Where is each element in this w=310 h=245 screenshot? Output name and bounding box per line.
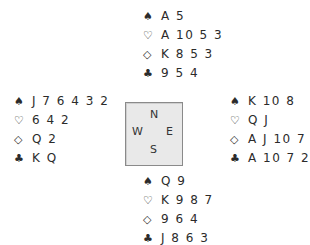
club-icon: ♣ (143, 229, 161, 245)
north-hand: ♠A 5 ♡A 10 5 3 ◇K 8 5 3 ♣9 5 4 (143, 7, 223, 83)
heart-icon: ♡ (143, 26, 161, 45)
north-hearts: ♡A 10 5 3 (143, 26, 223, 45)
east-hearts: ♡Q J (230, 111, 310, 130)
south-hand: ♠Q 9 ♡K 9 8 7 ◇9 6 4 ♣J 8 6 3 (143, 172, 214, 245)
west-diamonds-cards: Q 2 (32, 130, 57, 149)
club-icon: ♣ (143, 64, 161, 83)
south-diamonds-cards: 9 6 4 (161, 210, 199, 229)
diamond-icon: ◇ (143, 210, 161, 229)
spade-icon: ♠ (14, 92, 32, 111)
west-diamonds: ◇Q 2 (14, 130, 109, 149)
diamond-icon: ◇ (143, 45, 161, 64)
east-spades: ♠K 10 8 (230, 92, 310, 111)
south-spades: ♠Q 9 (143, 172, 214, 191)
north-diamonds: ◇K 8 5 3 (143, 45, 223, 64)
east-spades-cards: K 10 8 (248, 92, 295, 111)
west-spades: ♠J 7 6 4 3 2 (14, 92, 109, 111)
west-clubs: ♣K Q (14, 149, 109, 168)
club-icon: ♣ (230, 149, 248, 168)
north-diamonds-cards: K 8 5 3 (161, 45, 214, 64)
spade-icon: ♠ (230, 92, 248, 111)
compass-east-label: E (166, 126, 173, 138)
south-hearts-cards: K 9 8 7 (161, 191, 214, 210)
club-icon: ♣ (14, 149, 32, 168)
east-hand: ♠K 10 8 ♡Q J ◇A J 10 7 ♣A 10 7 2 (230, 92, 310, 168)
north-spades-cards: A 5 (161, 7, 185, 26)
spade-icon: ♠ (143, 172, 161, 191)
compass-south-label: S (150, 144, 157, 156)
north-clubs: ♣9 5 4 (143, 64, 223, 83)
east-hearts-cards: Q J (248, 111, 269, 130)
west-spades-cards: J 7 6 4 3 2 (32, 92, 109, 111)
west-hearts: ♡6 4 2 (14, 111, 109, 130)
east-clubs: ♣A 10 7 2 (230, 149, 310, 168)
compass-north-label: N (150, 109, 158, 121)
heart-icon: ♡ (143, 191, 161, 210)
west-clubs-cards: K Q (32, 149, 58, 168)
diamond-icon: ◇ (14, 130, 32, 149)
heart-icon: ♡ (14, 111, 32, 130)
south-spades-cards: Q 9 (161, 172, 186, 191)
compass-box: N W E S (125, 102, 183, 166)
north-hearts-cards: A 10 5 3 (161, 26, 223, 45)
south-clubs-cards: J 8 6 3 (161, 229, 209, 245)
compass-west-label: W (132, 126, 143, 138)
north-spades: ♠A 5 (143, 7, 223, 26)
north-clubs-cards: 9 5 4 (161, 64, 199, 83)
east-diamonds-cards: A J 10 7 (248, 130, 306, 149)
west-hand: ♠J 7 6 4 3 2 ♡6 4 2 ◇Q 2 ♣K Q (14, 92, 109, 168)
spade-icon: ♠ (143, 7, 161, 26)
diamond-icon: ◇ (230, 130, 248, 149)
heart-icon: ♡ (230, 111, 248, 130)
south-hearts: ♡K 9 8 7 (143, 191, 214, 210)
south-clubs: ♣J 8 6 3 (143, 229, 214, 245)
west-hearts-cards: 6 4 2 (32, 111, 70, 130)
south-diamonds: ◇9 6 4 (143, 210, 214, 229)
east-clubs-cards: A 10 7 2 (248, 149, 310, 168)
east-diamonds: ◇A J 10 7 (230, 130, 310, 149)
